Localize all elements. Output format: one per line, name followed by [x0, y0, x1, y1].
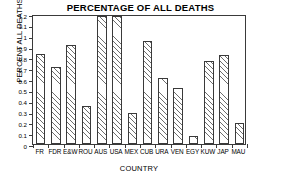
bar — [143, 41, 152, 144]
y-axis-tick-label: 0.9 — [18, 45, 27, 52]
x-axis-tick-label: FDR — [49, 148, 62, 155]
bar — [173, 88, 182, 144]
y-axis-tick: 0.5 — [29, 92, 33, 93]
y-axis-tick-label: 0 — [24, 143, 27, 150]
bar — [112, 16, 121, 144]
y-axis-tick-label: 0.4 — [18, 99, 27, 106]
bar — [235, 123, 244, 144]
bar — [66, 45, 75, 144]
plot-frame: 00.10.20.30.40.50.60.70.80.911.11.2 — [32, 15, 246, 145]
bar — [204, 61, 213, 144]
x-axis-tick — [33, 144, 34, 148]
y-axis-tick-label: 0.3 — [18, 110, 27, 117]
y-axis-tick: 0.6 — [29, 81, 33, 82]
plot-area: 00.10.20.30.40.50.60.70.80.911.11.2 — [33, 16, 245, 144]
y-axis-tick: 0.9 — [29, 49, 33, 50]
x-axis-tick-label: ROU — [79, 148, 93, 155]
x-axis-tick-label: VEN — [171, 148, 184, 155]
y-axis-tick-label: 0.6 — [18, 78, 27, 85]
x-axis-tick-label: MEX — [125, 148, 139, 155]
y-axis-tick-label: 1.2 — [18, 13, 27, 20]
y-axis-tick-label: 0.1 — [18, 132, 27, 139]
y-axis-tick: 1.2 — [29, 16, 33, 17]
x-axis-tick-label: JAP — [217, 148, 228, 155]
x-axis-tick-label: KUW — [200, 148, 215, 155]
y-axis-tick: 0.8 — [29, 59, 33, 60]
x-axis-tick-label: EGY — [186, 148, 199, 155]
bar — [189, 136, 198, 144]
y-axis-tick: 0.7 — [29, 70, 33, 71]
x-axis-tick-label: FR — [35, 148, 43, 155]
y-axis-tick-label: 0.8 — [18, 56, 27, 63]
x-axis-title: COUNTRY — [32, 164, 246, 173]
x-axis-tick — [247, 144, 248, 148]
y-axis-tick: 0.4 — [29, 103, 33, 104]
bar — [51, 67, 60, 144]
bar — [97, 16, 106, 144]
x-axis-tick-label: AUS — [94, 148, 107, 155]
x-axis-tick-label: E&W — [63, 148, 77, 155]
bar-chart-figure: PERCENTAGE OF ALL DEATHS PERCENT ALL DEA… — [0, 0, 281, 180]
y-axis-tick-label: 1.1 — [18, 23, 27, 30]
y-axis-tick-label: 0.7 — [18, 67, 27, 74]
x-axis-tick-label: CUB — [140, 148, 153, 155]
y-axis-tick: 1.1 — [29, 27, 33, 28]
chart-title: PERCENTAGE OF ALL DEATHS — [0, 2, 281, 13]
y-axis-tick: 1 — [29, 38, 33, 39]
bar — [219, 55, 228, 144]
y-axis-tick-label: 0.5 — [18, 88, 27, 95]
bar — [128, 113, 137, 144]
x-axis-tick-label: USA — [110, 148, 123, 155]
x-axis-tick-label: URA — [155, 148, 168, 155]
bar — [36, 54, 45, 144]
x-axis-tick-label: MAU — [231, 148, 245, 155]
y-axis-tick-label: 0.2 — [18, 121, 27, 128]
y-axis-tick: 0.1 — [29, 135, 33, 136]
y-axis-tick-label: 1 — [24, 34, 27, 41]
y-axis-tick: 0.3 — [29, 114, 33, 115]
bar — [158, 78, 167, 144]
bar — [82, 106, 91, 144]
y-axis-tick: 0.2 — [29, 124, 33, 125]
